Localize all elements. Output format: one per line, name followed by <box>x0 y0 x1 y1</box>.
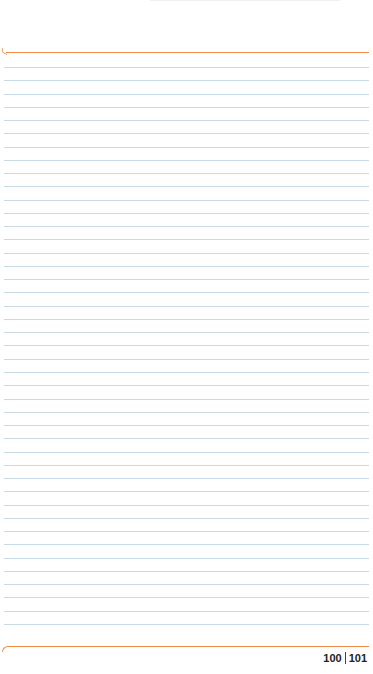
ruled-line <box>4 624 369 625</box>
ruled-line <box>4 452 369 453</box>
ruled-line <box>4 584 369 585</box>
ruled-line <box>4 186 369 187</box>
ruled-line <box>4 253 369 254</box>
ruled-line <box>4 345 369 346</box>
ruled-line <box>4 332 369 333</box>
ruled-line <box>4 94 369 95</box>
ruled-line <box>4 133 369 134</box>
ruled-line <box>4 531 369 532</box>
notebook-page: 100 101 <box>0 0 373 674</box>
ruled-line <box>4 67 369 68</box>
ruled-line <box>4 279 369 280</box>
ruled-line <box>4 465 369 466</box>
ruled-line <box>4 505 369 506</box>
ruled-line <box>4 491 369 492</box>
ruled-line <box>4 478 369 479</box>
ruled-line <box>4 359 369 360</box>
ruled-line <box>4 200 369 201</box>
ruled-line <box>4 372 369 373</box>
ruled-line <box>4 120 369 121</box>
ruled-line <box>4 226 369 227</box>
ruled-line <box>4 558 369 559</box>
bottom-orange-rule <box>12 646 369 647</box>
ruled-line <box>4 173 369 174</box>
ruled-line <box>4 107 369 108</box>
ruled-line <box>4 319 369 320</box>
ruled-line <box>4 438 369 439</box>
ruled-line <box>4 412 369 413</box>
ruled-line <box>4 399 369 400</box>
ruled-line <box>4 306 369 307</box>
ruled-line <box>4 239 369 240</box>
top-orange-rule <box>6 52 369 53</box>
ruled-line <box>4 544 369 545</box>
ruled-line <box>4 611 369 612</box>
ruled-line <box>4 425 369 426</box>
ruled-line <box>4 597 369 598</box>
ruled-line <box>4 266 369 267</box>
ruled-line <box>4 292 369 293</box>
ruled-line <box>4 213 369 214</box>
page-number: 100 101 <box>323 652 367 664</box>
ruled-line <box>4 80 369 81</box>
page-number-left: 100 <box>323 652 341 664</box>
page-number-separator <box>345 652 346 664</box>
ruled-line <box>4 385 369 386</box>
ruled-line <box>4 571 369 572</box>
top-edge-shadow <box>150 0 340 1</box>
page-number-right: 101 <box>349 652 367 664</box>
ruled-line <box>4 160 369 161</box>
ruled-line <box>4 147 369 148</box>
ruled-line <box>4 518 369 519</box>
